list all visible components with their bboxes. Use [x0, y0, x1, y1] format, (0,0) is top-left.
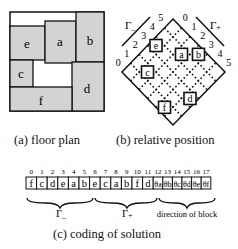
coding-cell-value: e — [61, 178, 66, 189]
brace-gamma-plus — [95, 198, 157, 208]
relative-block-label: c — [145, 67, 150, 78]
relative-block-label: e — [154, 40, 159, 51]
coding-cell-value: a — [71, 178, 76, 189]
coding-cell-value: θb — [164, 180, 172, 189]
coding-index: 12 — [155, 168, 163, 176]
coding-cell: b — [121, 177, 132, 189]
coding-index: 2 — [51, 168, 55, 176]
gamma-minus-label: Γ_ — [125, 19, 136, 32]
gamma-plus-tick: 3 — [209, 39, 214, 50]
block-label-c: c — [18, 66, 24, 81]
coding-cell: e — [90, 177, 101, 189]
gamma-minus-tick: 3 — [141, 30, 146, 41]
relative-block-f: f — [159, 101, 171, 113]
relative-block-e: e — [150, 40, 162, 52]
group-label-gamma-minus: Γ_ — [56, 208, 67, 220]
coding-index: 14 — [174, 168, 182, 176]
coding-cell-value: d — [50, 178, 56, 189]
gamma-plus-tick: 1 — [192, 21, 197, 32]
coding-cell: θc — [172, 177, 182, 189]
group-label-direction: direction of block — [157, 209, 218, 219]
coding-index: 11 — [145, 168, 152, 176]
brace-direction — [159, 198, 215, 208]
coding-index: 17 — [203, 168, 211, 176]
coding-cell: f — [26, 177, 37, 189]
coding-cell-value: b — [124, 178, 129, 189]
floor-plan: e a b c d f — [10, 12, 104, 111]
coding-cell: c — [100, 177, 111, 189]
coding-cell-value: θc — [174, 180, 182, 189]
coding-cell: f — [132, 177, 143, 189]
coding-cell: θf — [201, 177, 211, 189]
coding-cell-value: c — [40, 178, 45, 189]
coding-cell-value: θa — [154, 180, 162, 189]
coding-index: 3 — [61, 168, 65, 176]
caption-coding: (c) coding of solution — [53, 227, 161, 242]
coding-index: 7 — [104, 168, 108, 176]
relative-block-label: a — [179, 49, 184, 60]
brace-gamma-minus — [27, 198, 93, 208]
gamma-plus-ticks: 012345 — [183, 12, 231, 67]
coding-cell-value: a — [114, 178, 119, 189]
coding-cells: fcdeabecabfdθaθbθcθdθeθf — [26, 177, 211, 189]
relative-block-c: c — [142, 66, 154, 78]
relative-block-label: b — [196, 49, 201, 60]
coding-cell: θb — [163, 177, 173, 189]
coding-of-solution: 01234567891011121314151617 fcdeabecabfdθ… — [26, 168, 218, 220]
gamma-plus-tick: 0 — [183, 12, 188, 23]
relative-position-diagram: Γ_ Γ+ 012345 012345 eabcfd — [116, 12, 231, 125]
gamma-minus-tick: 4 — [150, 21, 155, 32]
coding-cell: a — [68, 177, 79, 189]
block-label-f: f — [39, 93, 44, 108]
block-label-d: d — [84, 81, 91, 96]
coding-index: 1 — [40, 168, 44, 176]
coding-cell: θd — [182, 177, 192, 189]
coding-cell-value: e — [93, 178, 98, 189]
block-label-a: a — [57, 34, 63, 49]
coding-cell: a — [111, 177, 122, 189]
caption-floor-plan: (a) floor plan — [14, 133, 80, 148]
coding-cell: d — [47, 177, 58, 189]
coding-cell-value: θe — [193, 180, 201, 189]
grid-line — [148, 46, 199, 99]
gamma-plus-tick: 2 — [200, 30, 205, 41]
block-label-b: b — [87, 33, 94, 48]
coding-index: 16 — [193, 168, 201, 176]
coding-index: 0 — [30, 168, 34, 176]
coding-cell-value: f — [30, 178, 34, 189]
coding-index: 9 — [125, 168, 129, 176]
gamma-plus-label: Γ+ — [210, 19, 221, 32]
coding-indices: 01234567891011121314151617 — [30, 168, 210, 176]
coding-cell: c — [37, 177, 48, 189]
relative-block-a: a — [176, 48, 188, 60]
coding-index: 8 — [114, 168, 118, 176]
gamma-plus-tick: 5 — [226, 57, 231, 68]
coding-cell: d — [143, 177, 154, 189]
figure: e a b c d f Γ_ Γ+ 012345 012345 eabcfd 0… — [0, 0, 238, 249]
coding-cell: e — [58, 177, 69, 189]
coding-index: 13 — [164, 168, 172, 176]
coding-cell-value: f — [136, 178, 140, 189]
coding-cell-value: θf — [203, 180, 210, 189]
coding-index: 10 — [134, 168, 142, 176]
coding-cell: b — [79, 177, 90, 189]
group-label-gamma-plus: Γ+ — [122, 208, 133, 220]
gamma-minus-tick: 0 — [116, 57, 121, 68]
coding-cell: θe — [192, 177, 202, 189]
relative-block-d: d — [184, 93, 196, 105]
coding-index: 4 — [72, 168, 76, 176]
block-label-e: e — [24, 36, 30, 51]
gamma-minus-tick: 1 — [124, 48, 129, 59]
relative-block-b: b — [193, 48, 205, 60]
coding-cell-value: b — [82, 178, 87, 189]
gamma-minus-tick: 2 — [133, 39, 138, 50]
coding-cell-value: d — [145, 178, 151, 189]
coding-index: 15 — [183, 168, 191, 176]
coding-cell-value: c — [103, 178, 108, 189]
gamma-plus-tick: 4 — [218, 48, 223, 59]
coding-index: 6 — [93, 168, 97, 176]
gamma-minus-tick: 5 — [158, 12, 163, 23]
coding-cell-value: θd — [183, 180, 191, 189]
coding-cell: θa — [153, 177, 163, 189]
caption-relative-position: (b) relative position — [116, 133, 215, 148]
